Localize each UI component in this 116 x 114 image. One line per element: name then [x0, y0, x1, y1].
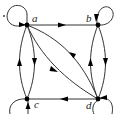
edge-a-d	[27, 25, 98, 99]
edge-b-b-loop	[97, 7, 113, 25]
arrow-c-a	[17, 58, 22, 66]
label-a: a	[32, 12, 38, 24]
arrow-a-c	[32, 58, 37, 66]
arrow-b-d	[103, 58, 108, 66]
node-c	[25, 97, 30, 102]
arrow-c-c	[26, 102, 31, 109]
arrow-a-d	[50, 66, 59, 72]
arrow-d-a	[69, 52, 76, 59]
arrow-a-b	[58, 23, 66, 28]
edge-d-d-loop-2	[93, 100, 98, 114]
label-b: b	[86, 12, 92, 24]
edge-d-d-loop	[99, 98, 112, 114]
arrow-d-c	[60, 97, 68, 102]
edge-d-a	[27, 25, 98, 99]
edge-a-a-loop	[7, 5, 27, 26]
node-b	[96, 23, 101, 28]
node-d	[96, 97, 101, 102]
arrow-d-b	[88, 58, 93, 66]
node-a	[25, 23, 30, 28]
directed-graph: a b c d	[0, 0, 116, 114]
marker-dot	[3, 15, 5, 17]
label-c: c	[34, 98, 39, 110]
edge-c-c-loop	[10, 99, 26, 114]
label-d: d	[86, 99, 92, 111]
